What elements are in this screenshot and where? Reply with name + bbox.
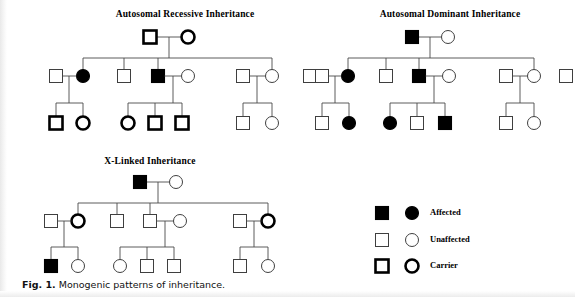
gen2-circle-carrier[interactable] [262, 215, 275, 228]
gen2-square-unaffected[interactable] [118, 70, 131, 83]
gen2-square-unaffected[interactable] [380, 70, 393, 83]
gen1-circle-unaffected[interactable] [442, 31, 455, 44]
gen2-square-affected[interactable] [152, 70, 165, 83]
gen3-circle-unaffected[interactable] [528, 117, 541, 130]
gen3-square-affected[interactable] [439, 117, 452, 130]
gen3-square-unaffected[interactable] [168, 260, 181, 273]
pedigree-autosomal-recessive: Autosomal Recessive Inheritance [50, 9, 317, 130]
gen2-square-unaffected[interactable] [50, 70, 63, 83]
gen2-square-unaffected[interactable] [500, 70, 513, 83]
gen2-square-unaffected[interactable] [111, 215, 124, 228]
gen2-circle-affected[interactable] [342, 70, 355, 83]
gen3-square-unaffected[interactable] [234, 260, 247, 273]
legend: AffectedUnaffectedCarrier [376, 207, 470, 273]
figure-caption: Fig. 1. Monogenic patterns of inheritanc… [22, 279, 225, 290]
gen3-square-carrier[interactable] [176, 117, 189, 130]
gen2-square-unaffected[interactable] [234, 215, 247, 228]
gen3-square-carrier[interactable] [149, 117, 162, 130]
gen3-square-unaffected[interactable] [237, 117, 250, 130]
gen3-circle-affected[interactable] [384, 117, 397, 130]
legend-circle-unaffected [406, 234, 419, 247]
gen2-square-unaffected[interactable] [560, 70, 573, 83]
legend-square-unaffected [376, 234, 389, 247]
gen3-circle-unaffected[interactable] [114, 260, 127, 273]
gen2-circle-unaffected[interactable] [182, 70, 195, 83]
gen2-circle-unaffected[interactable] [443, 70, 456, 83]
gen3-square-unaffected[interactable] [316, 117, 329, 130]
pedigree-title-autosomal-dominant: Autosomal Dominant Inheritance [380, 9, 521, 19]
legend-label-unaffected: Unaffected [430, 234, 470, 244]
gen1-circle-unaffected[interactable] [170, 176, 183, 189]
pedigree-figure: Autosomal Recessive InheritanceAutosomal… [0, 0, 575, 297]
gen2-circle-unaffected[interactable] [174, 215, 187, 228]
gen2-square-unaffected[interactable] [316, 70, 329, 83]
gen1-circle-carrier[interactable] [182, 31, 195, 44]
gen3-square-affected[interactable] [45, 260, 58, 273]
pedigree-title-autosomal-recessive: Autosomal Recessive Inheritance [116, 9, 255, 19]
legend-circle-affected [406, 207, 419, 220]
gen3-square-unaffected[interactable] [411, 117, 424, 130]
legend-square-carrier [376, 260, 389, 273]
gen2-square-unaffected[interactable] [304, 70, 317, 83]
legend-label-carrier: Carrier [430, 260, 458, 270]
gen2-square-affected[interactable] [413, 70, 426, 83]
caption-text: Monogenic patterns of inheritance. [59, 279, 225, 290]
gen1-square-carrier[interactable] [144, 31, 157, 44]
legend-circle-carrier [406, 260, 419, 273]
gen3-square-carrier[interactable] [50, 117, 63, 130]
gen2-square-unaffected[interactable] [144, 215, 157, 228]
pedigree-x-linked: X-Linked Inheritance [45, 156, 275, 273]
legend-square-affected [376, 207, 389, 220]
gen2-square-unaffected[interactable] [237, 70, 250, 83]
caption-label: Fig. 1. [22, 279, 56, 290]
gen2-circle-unaffected[interactable] [266, 70, 279, 83]
gen2-square-unaffected[interactable] [45, 215, 58, 228]
gen3-circle-affected[interactable] [343, 117, 356, 130]
pedigree-title-x-linked: X-Linked Inheritance [104, 156, 195, 166]
gen2-circle-affected[interactable] [77, 70, 90, 83]
gen2-circle-carrier[interactable] [72, 215, 85, 228]
gen3-circle-carrier[interactable] [122, 117, 135, 130]
gen3-circle-unaffected[interactable] [72, 260, 85, 273]
gen3-circle-carrier[interactable] [77, 117, 90, 130]
legend-label-affected: Affected [430, 207, 461, 217]
gen3-square-unaffected[interactable] [141, 260, 154, 273]
gen3-circle-unaffected[interactable] [266, 117, 279, 130]
gen3-square-unaffected[interactable] [500, 117, 513, 130]
gen1-square-affected[interactable] [406, 31, 419, 44]
gen2-circle-unaffected[interactable] [528, 70, 541, 83]
gen3-circle-unaffected[interactable] [262, 260, 275, 273]
pedigree-autosomal-dominant: Autosomal Dominant Inheritance [316, 9, 573, 130]
gen1-square-affected[interactable] [134, 176, 147, 189]
